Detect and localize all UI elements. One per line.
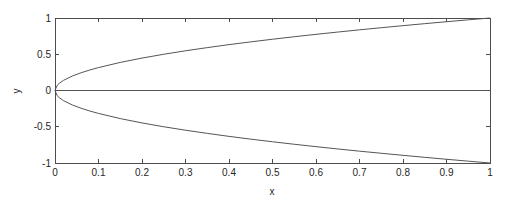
chart: 00.10.20.30.40.50.60.70.80.91 -1-0.500.5…: [0, 0, 507, 214]
y-tick-label: -0.5: [34, 121, 52, 132]
y-axis-label: y: [11, 89, 22, 94]
x-tick-label: 0.2: [135, 167, 149, 178]
x-tick-label: 0.8: [396, 167, 410, 178]
y-tick-label: -1: [42, 158, 51, 169]
x-tick-label: 0.4: [222, 167, 236, 178]
x-tick-label: 0.1: [92, 167, 106, 178]
x-tick-label: 1: [487, 167, 493, 178]
y-tick-label: 1: [45, 13, 51, 24]
y-tick-label: 0.5: [37, 49, 51, 60]
x-tick-label: 0: [52, 167, 58, 178]
x-axis-label: x: [270, 186, 275, 197]
x-tick-label: 0.3: [179, 167, 193, 178]
x-tick-label: 0.7: [353, 167, 367, 178]
x-tick-label: 0.6: [309, 167, 323, 178]
x-tick-label: 0.5: [266, 167, 280, 178]
x-tick-label: 0.9: [440, 167, 454, 178]
y-tick-label: 0: [45, 85, 51, 96]
